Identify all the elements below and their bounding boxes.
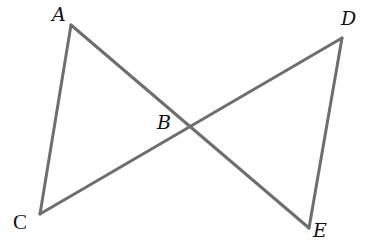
segment-de [309,38,342,228]
geometry-diagram [0,0,366,247]
vertex-label-b: B [157,113,171,132]
vertex-label-a: A [52,5,66,24]
vertex-label-c: C [13,212,27,233]
vertex-label-d: D [341,9,356,28]
vertex-label-e: E [313,221,327,240]
segment-cd [40,38,342,214]
segment-ac [40,25,71,214]
